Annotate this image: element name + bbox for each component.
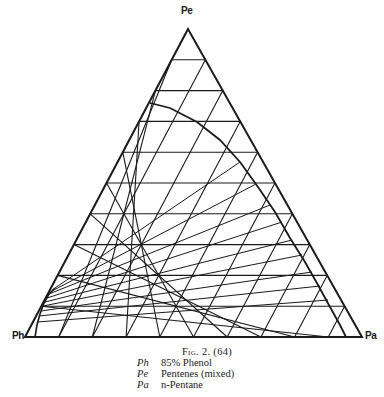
legend-item: Pe Pentenes (mixed) [137, 368, 384, 379]
vertex-label-pe: Pe [181, 5, 192, 16]
binodal-curve-outer [150, 103, 346, 337]
vertex-label-pa: Pa [365, 330, 376, 341]
legend-key: Ph [137, 357, 161, 368]
legend-value: Pentenes (mixed) [161, 368, 234, 379]
vertex-label-ph: Ph [12, 330, 24, 341]
legend-item: Ph 85% Phenol [137, 357, 384, 368]
legend-value: 85% Phenol [161, 357, 212, 368]
figure-caption: Fig. 2. (64) Ph 85% Phenol Pe Pentenes (… [0, 346, 384, 390]
legend-key: Pe [137, 368, 161, 379]
figure-title: Fig. 2. (64) [30, 346, 384, 357]
grid-lines [41, 60, 344, 337]
legend-key: Pa [137, 379, 161, 390]
legend-value: n-Pentane [161, 379, 203, 390]
ternary-diagram [0, 0, 384, 345]
legend-item: Pa n-Pentane [137, 379, 384, 390]
legend: Ph 85% Phenol Pe Pentenes (mixed) Pa n-P… [137, 357, 384, 390]
